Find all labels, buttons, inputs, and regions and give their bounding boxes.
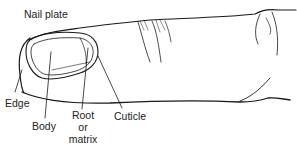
knuckle-crease-2 [152,21,161,62]
leader-body [45,52,51,118]
label-cuticle: Cuticle [114,110,146,122]
rear-fold-1 [256,14,260,44]
leader-root [82,48,88,109]
nail-root-curve [80,38,86,64]
nail-highlight [52,62,90,70]
nail-inner [31,38,93,75]
leader-cuticle [98,56,122,108]
label-nail-plate: Nail plate [24,8,68,20]
label-root-line2: or [66,121,100,133]
fingertip-curve [19,38,30,93]
label-root-or-matrix: Root or matrix [66,109,100,145]
rear-bottom-bump [240,78,270,101]
finger-nail-diagram: Nail plate Edge Body Root or matrix Cuti… [0,0,297,152]
rear-fold-2 [272,12,278,55]
label-body: Body [32,120,56,132]
knuckle-crease-3 [165,21,171,42]
knuckle-crease-1 [138,22,150,62]
finger-bottom-outline [22,92,290,103]
rear-fold-3 [266,18,271,34]
label-root-line1: Root [66,109,100,121]
label-edge: Edge [5,97,30,109]
label-root-line3: matrix [66,133,100,145]
